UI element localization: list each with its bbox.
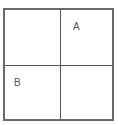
quadrant-bottom-left: B	[5, 66, 60, 119]
quadrant-bottom-right	[61, 66, 112, 119]
label-a: A	[73, 22, 80, 32]
quadrant-top-left	[5, 10, 60, 65]
label-b: B	[14, 78, 21, 88]
horizontal-divider	[5, 65, 112, 66]
quadrant-top-right: A	[61, 10, 112, 65]
grid-frame: A B	[3, 8, 114, 121]
